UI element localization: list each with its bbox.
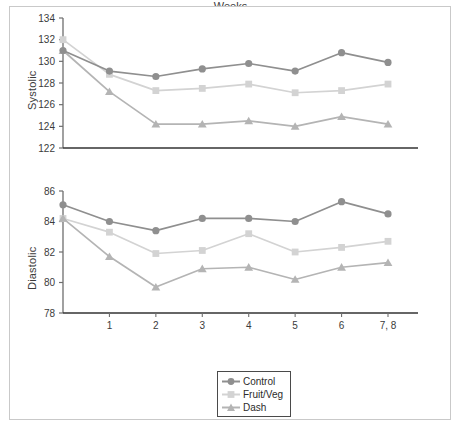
legend-label-control: Control	[241, 375, 275, 388]
systolic-panel-y-tick-label-1: 124	[38, 121, 55, 132]
diastolic-panel-0-point-6	[338, 198, 345, 205]
diastolic-panel-line-0	[63, 202, 388, 231]
blood-pressure-figure: 122124126128130132134 Systolic 788082848…	[0, 0, 461, 431]
diastolic-panel-y-tick-label-2: 82	[44, 247, 56, 258]
systolic-panel-y-tick-label-0: 122	[38, 143, 55, 154]
diastolic-panel-1-point-2	[152, 250, 159, 257]
chart-legend: Control Fruit/Veg Dash	[217, 371, 291, 417]
systolic-panel-1-point-5	[292, 89, 299, 96]
diastolic-panel-x-tick-label-4: 4	[246, 320, 252, 331]
systolic-panel-0-point-6	[338, 49, 345, 56]
diastolic-panel-x-tick-label-2: 2	[153, 320, 159, 331]
systolic-panel-0-point-0	[59, 47, 66, 54]
diastolic-panel-0-point-0	[59, 201, 66, 208]
legend-item-control: Control	[221, 375, 286, 388]
systolic-panel-0-point-4	[245, 60, 252, 67]
diastolic-panel-1-point-7	[385, 238, 392, 245]
diastolic-panel-y-tick-label-0: 78	[44, 308, 56, 319]
diastolic-plot-svg: 78808284861234567, 8	[0, 170, 461, 360]
systolic-panel-0-point-2	[152, 73, 159, 80]
diastolic-panel-x-tick-label-7: 7, 8	[380, 320, 397, 331]
diastolic-panel-0-point-3	[199, 215, 206, 222]
diastolic-panel-0-point-1	[106, 218, 113, 225]
legend-item-fruit-veg: Fruit/Veg	[221, 388, 286, 401]
diastolic-panel-1-point-5	[292, 249, 299, 256]
diastolic-y-axis-title: Diastolic	[26, 247, 38, 290]
diastolic-panel-1-point-1	[106, 229, 113, 236]
systolic-plot-svg: 122124126128130132134	[0, 0, 461, 170]
systolic-panel-1-point-7	[385, 81, 392, 88]
systolic-panel-1-point-4	[245, 81, 252, 88]
diastolic-panel-y-tick-label-4: 86	[44, 186, 56, 197]
diastolic-chart-panel: 78808284861234567, 8	[0, 170, 461, 360]
legend-item-dash: Dash	[221, 401, 286, 414]
systolic-panel-y-tick-label-6: 134	[38, 13, 55, 24]
legend-label-fruit-veg: Fruit/Veg	[241, 388, 283, 401]
diastolic-panel-0-point-2	[152, 227, 159, 234]
systolic-chart-panel: 122124126128130132134	[0, 0, 461, 170]
diastolic-panel-series-dash	[59, 214, 393, 290]
systolic-panel-1-point-2	[152, 87, 159, 94]
diastolic-panel-y-tick-label-3: 84	[44, 216, 56, 227]
diastolic-panel-x-tick-label-1: 1	[107, 320, 113, 331]
systolic-panel-1-point-6	[338, 87, 345, 94]
systolic-panel-y-tick-label-3: 128	[38, 78, 55, 89]
diastolic-panel-1-point-3	[199, 247, 206, 254]
systolic-panel-1-point-3	[199, 85, 206, 92]
systolic-y-axis-title: Systolic	[26, 71, 38, 111]
diastolic-panel-x-tick-label-3: 3	[200, 320, 206, 331]
systolic-panel-0-point-7	[384, 59, 391, 66]
diastolic-panel-y-tick-label-1: 80	[44, 277, 56, 288]
diastolic-panel-0-point-4	[245, 215, 252, 222]
circle-marker-icon	[221, 375, 241, 388]
diastolic-panel-x-tick-label-5: 5	[292, 320, 298, 331]
diastolic-panel-1-point-4	[245, 230, 252, 237]
systolic-panel-y-tick-label-4: 130	[38, 56, 55, 67]
diastolic-panel-0-point-5	[292, 218, 299, 225]
diastolic-panel-1-point-6	[338, 244, 345, 251]
systolic-panel-0-point-1	[106, 67, 113, 74]
systolic-panel-y-tick-label-2: 126	[38, 99, 55, 110]
square-marker-icon	[221, 388, 241, 401]
systolic-panel-y-tick-label-5: 132	[38, 34, 55, 45]
triangle-marker-icon	[221, 401, 241, 414]
systolic-panel-2-point-6	[337, 112, 346, 120]
systolic-panel-0-point-3	[199, 65, 206, 72]
diastolic-panel-x-tick-label-6: 6	[339, 320, 345, 331]
diastolic-panel-line-2	[63, 218, 388, 287]
legend-label-dash: Dash	[241, 401, 266, 414]
diastolic-panel-0-point-7	[384, 210, 391, 217]
systolic-panel-0-point-5	[292, 67, 299, 74]
systolic-panel-1-point-0	[60, 36, 67, 43]
